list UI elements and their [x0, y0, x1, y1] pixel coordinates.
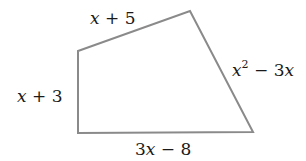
- side-label-left-rest: + 3: [27, 86, 63, 106]
- side-label-right-var: x: [232, 60, 242, 80]
- side-label-left: x + 3: [17, 86, 62, 106]
- side-label-bottom-var: x: [146, 139, 156, 159]
- side-label-left-var: x: [17, 86, 27, 106]
- side-label-top: x + 5: [90, 8, 135, 28]
- side-label-right-var2: x: [284, 60, 294, 80]
- side-label-top-rest: + 5: [100, 8, 136, 28]
- side-label-right-rest: − 3: [249, 60, 285, 80]
- side-label-bottom-coef: 3: [135, 139, 146, 159]
- side-label-top-var: x: [90, 8, 100, 28]
- side-label-right: x2 − 3x: [232, 58, 294, 80]
- side-label-bottom: 3x − 8: [135, 139, 191, 159]
- quadrilateral-diagram: x + 5 x + 3 x2 − 3x 3x − 8: [0, 0, 306, 161]
- side-label-bottom-rest: − 8: [155, 139, 191, 159]
- quadrilateral-shape: [78, 11, 253, 133]
- side-label-right-exponent: 2: [242, 58, 249, 71]
